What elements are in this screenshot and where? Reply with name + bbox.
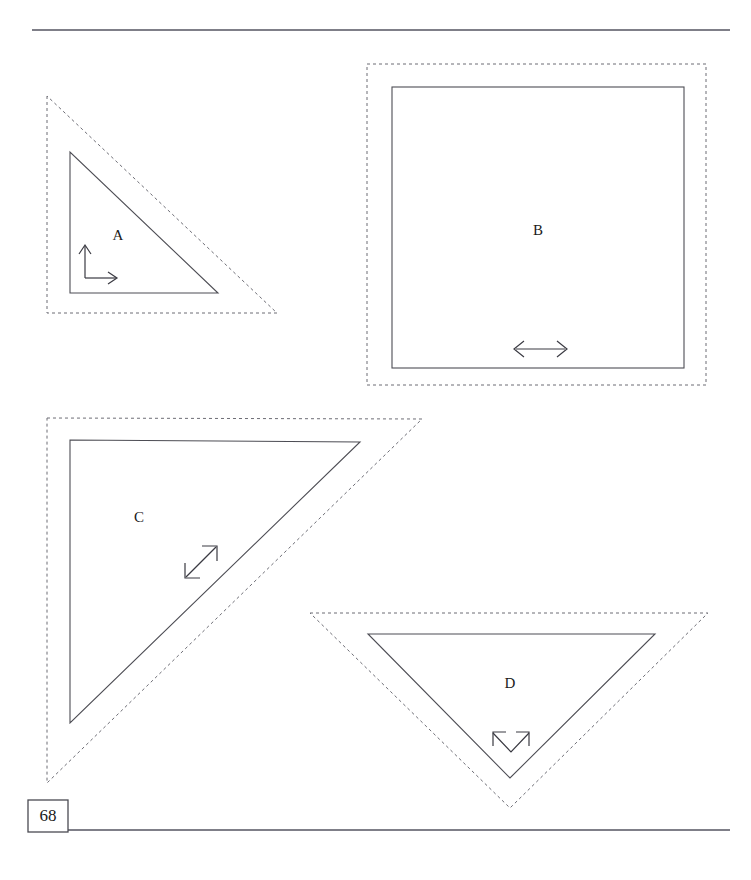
document-page: A B C [0,0,751,880]
figure-a-label: A [113,227,124,243]
figure-d-dotted-triangle [310,613,708,808]
figure-b-label: B [533,222,543,238]
figures-canvas: A B C [0,0,751,880]
figure-a: A [47,96,277,313]
figure-a-dotted-triangle [47,96,277,313]
figure-a-corner-double-arrow-icon [79,245,117,284]
figure-d-solid-triangle [368,634,655,778]
figure-b-horizontal-double-arrow-icon [514,341,567,357]
figure-d-chevron-double-arrow-icon [493,732,529,752]
figure-d: D [310,613,708,808]
figure-c-dotted-triangle [47,418,422,783]
figure-d-label: D [505,675,516,691]
figure-a-solid-triangle [70,152,218,293]
page-number: 68 [40,806,57,825]
figure-c: C [47,418,422,783]
figure-c-diagonal-double-arrow-icon [185,546,217,578]
figure-c-label: C [134,509,144,525]
page-footer: 68 [28,800,730,832]
figure-b: B [367,64,706,385]
figure-c-solid-triangle [70,440,360,723]
